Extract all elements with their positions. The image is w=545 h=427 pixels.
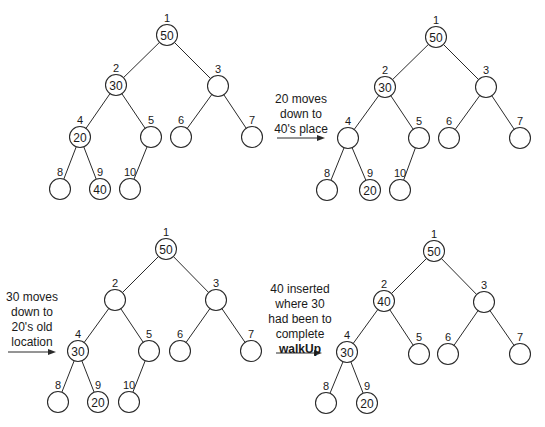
node-index-label: 8	[55, 379, 61, 391]
tree-edge	[330, 362, 343, 394]
heap-node-3: 3	[476, 64, 497, 98]
tree-panel-2: 15023034567892010	[317, 14, 531, 201]
heap-node-2: 230	[106, 62, 127, 96]
node-value: 50	[160, 29, 174, 43]
heap-node-5: 5	[409, 115, 430, 149]
node-index-label: 3	[481, 279, 487, 291]
heap-node-6: 6	[438, 331, 459, 365]
node-circle	[170, 341, 191, 362]
heap-node-3: 3	[206, 277, 227, 311]
node-circle	[119, 392, 140, 413]
tree-edge	[187, 94, 212, 128]
node-circle	[476, 77, 497, 98]
tree-edge	[443, 44, 478, 79]
tree-edge	[391, 96, 413, 130]
caption-line: where 30	[268, 297, 332, 312]
node-circle	[338, 128, 359, 149]
tree-edge	[84, 308, 109, 342]
node-circle	[438, 344, 459, 365]
heap-node-10: 10	[390, 167, 411, 201]
heap-node-6: 6	[171, 114, 192, 148]
tree-edge	[351, 362, 363, 393]
tree-edge	[121, 309, 143, 343]
tree-edge	[186, 309, 210, 343]
node-index-label: 2	[381, 278, 387, 290]
node-circle	[317, 180, 338, 201]
node-index-label: 9	[364, 380, 370, 392]
caption-line: 40 inserted	[268, 282, 332, 297]
node-circle	[439, 128, 460, 149]
heap-node-7: 7	[241, 328, 262, 362]
tree-panel-1: 1502303420567894010	[50, 12, 263, 200]
tree-edge	[224, 95, 246, 129]
caption-line: down to	[2, 305, 62, 320]
node-value: 50	[427, 245, 441, 259]
node-index-label: 8	[57, 166, 63, 178]
tree-edge	[123, 42, 159, 77]
node-index-label: 6	[445, 331, 451, 343]
node-index-label: 1	[164, 12, 170, 24]
node-value: 40	[93, 183, 107, 197]
node-index-label: 5	[416, 331, 422, 343]
heap-node-5: 5	[141, 114, 162, 148]
node-index-label: 6	[446, 115, 452, 127]
heap-node-5: 5	[409, 331, 430, 365]
tree-panel-3: 15023430567892010	[48, 226, 262, 413]
node-circle	[171, 127, 192, 148]
heap-node-7: 7	[242, 114, 263, 148]
node-index-label: 9	[97, 166, 103, 178]
node-index-label: 3	[213, 277, 219, 289]
node-circle	[206, 290, 227, 311]
node-circle	[474, 292, 495, 313]
node-value: 40	[377, 295, 391, 309]
node-index-label: 4	[345, 115, 351, 127]
caption-line: 30 moves	[2, 290, 62, 305]
node-index-label: 1	[431, 228, 437, 240]
node-index-label: 7	[248, 328, 254, 340]
caption-line: 20 moves	[272, 92, 330, 107]
node-circle	[120, 179, 141, 200]
tree-edge	[390, 310, 413, 345]
node-index-label: 4	[344, 329, 350, 341]
tree-edge	[174, 42, 210, 78]
node-index-label: 4	[77, 114, 83, 126]
heap-node-1: 150	[157, 12, 178, 46]
tree-edge	[441, 258, 476, 294]
node-index-label: 6	[177, 328, 183, 340]
node-index-label: 10	[124, 166, 136, 178]
node-value: 30	[71, 345, 85, 359]
caption-line: 40's place	[272, 122, 330, 137]
heap-node-3: 3	[474, 279, 495, 313]
tree-edge	[492, 96, 514, 130]
node-index-label: 4	[75, 328, 81, 340]
heap-node-7: 7	[510, 331, 531, 365]
tree-edge	[84, 147, 96, 179]
heap-node-5: 5	[139, 328, 160, 362]
node-circle	[510, 128, 531, 149]
heap-node-4: 430	[68, 328, 89, 362]
node-value: 30	[109, 79, 123, 93]
node-value: 50	[429, 31, 443, 45]
tree-panel-4: 15024034305678920	[316, 228, 531, 414]
heap-node-2: 240	[374, 278, 395, 312]
node-circle	[105, 290, 126, 311]
heap-node-2: 230	[375, 64, 396, 98]
node-index-label: 3	[483, 64, 489, 76]
node-index-label: 2	[382, 64, 388, 76]
node-index-label: 5	[416, 115, 422, 127]
node-circle	[409, 128, 430, 149]
tree-edge	[354, 95, 379, 129]
node-circle	[208, 76, 229, 97]
node-index-label: 7	[517, 115, 523, 127]
caption-panel-4: 40 inserted where 30 had been to complet…	[268, 282, 332, 357]
tree-edge	[82, 361, 94, 392]
tree-edge	[122, 256, 158, 292]
caption-line: 20's old	[2, 320, 62, 335]
tree-edge	[454, 311, 478, 346]
node-index-label: 7	[517, 331, 523, 343]
node-circle	[139, 341, 160, 362]
tree-edge	[455, 95, 480, 129]
node-index-label: 2	[113, 62, 119, 74]
heap-node-1: 150	[156, 226, 177, 260]
caption-line: complete	[268, 327, 332, 342]
